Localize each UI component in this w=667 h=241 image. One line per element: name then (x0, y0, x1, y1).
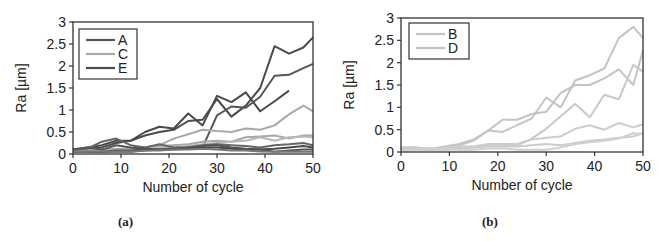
y-tick-label: 0.5 (375, 122, 395, 138)
y-tick-label: 3 (58, 14, 66, 30)
y-tick-label: 1.5 (375, 77, 395, 93)
x-tick-label: 0 (69, 160, 77, 176)
y-tick-label: 1 (58, 102, 66, 118)
x-tick-label: 50 (635, 158, 651, 174)
y-tick-label: 1.5 (47, 80, 67, 96)
series-line-d-2 (401, 123, 643, 148)
line-chart-b: 00.511.522.5301020304050Number of cycleR… (340, 0, 667, 241)
x-tick-label: 0 (397, 158, 405, 174)
y-tick-label: 0 (58, 146, 66, 162)
legend-box (409, 23, 469, 59)
y-tick-label: 2.5 (47, 36, 67, 52)
legend: BD (409, 23, 469, 59)
y-tick-label: 3 (386, 10, 394, 26)
y-tick-label: 0 (386, 144, 394, 160)
y-tick-label: 1 (386, 99, 394, 115)
y-axis-label: Ra [µm] (13, 63, 29, 112)
x-tick-label: 40 (587, 158, 603, 174)
x-tick-label: 20 (161, 160, 177, 176)
chart-panel-a: 00.511.522.5301020304050Number of cycleR… (0, 0, 340, 241)
caption-a: (a) (118, 214, 133, 230)
y-tick-label: 2.5 (375, 32, 395, 48)
x-axis-label: Number of cycle (471, 177, 572, 193)
y-tick-label: 0.5 (47, 124, 67, 140)
x-tick-label: 20 (490, 158, 506, 174)
line-chart-a: 00.511.522.5301020304050Number of cycleR… (0, 0, 340, 241)
y-axis-label: Ra [µm] (341, 60, 357, 109)
x-tick-label: 10 (442, 158, 458, 174)
legend-label-e: E (118, 60, 127, 76)
legend-label-d: D (448, 40, 458, 56)
caption-b: (b) (482, 214, 498, 230)
x-tick-label: 30 (209, 160, 225, 176)
x-tick-label: 40 (257, 160, 273, 176)
x-tick-label: 50 (305, 160, 321, 176)
legend: ACE (79, 29, 137, 79)
y-tick-label: 2 (58, 58, 66, 74)
x-tick-label: 10 (113, 160, 129, 176)
x-axis-label: Number of cycle (142, 179, 243, 195)
chart-panel-b: 00.511.522.5301020304050Number of cycleR… (340, 0, 667, 241)
x-tick-label: 30 (538, 158, 554, 174)
y-tick-label: 2 (386, 55, 394, 71)
